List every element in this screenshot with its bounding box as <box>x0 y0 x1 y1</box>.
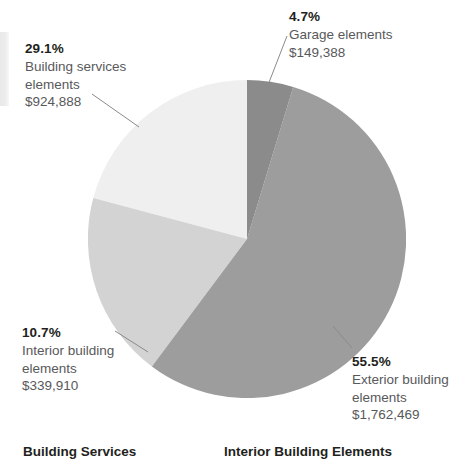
leader-line-garage <box>268 36 287 85</box>
callout-percent: 10.7% <box>22 324 114 342</box>
callout-percent: 29.1% <box>25 40 126 58</box>
callout-value: $1,762,469 <box>352 406 449 424</box>
callout-name-line2: elements <box>22 360 114 378</box>
callout-building-services: 29.1% Building services elements $924,88… <box>25 40 126 111</box>
caption-interior-building-elements: Interior Building Elements <box>224 444 392 459</box>
pie-chart-figure: 29.1% Building services elements $924,88… <box>0 0 473 460</box>
callout-name-line2: elements <box>352 389 449 407</box>
caption-building-services: Building Services <box>23 444 136 459</box>
page-edge-artifact <box>0 32 9 106</box>
callout-name-line1: Garage elements <box>289 26 393 44</box>
callout-name-line2: elements <box>25 76 126 94</box>
callout-interior-building: 10.7% Interior building elements $339,91… <box>22 324 114 395</box>
callout-name-line1: Exterior building <box>352 371 449 389</box>
callout-value: $149,388 <box>289 44 393 62</box>
pie-chart <box>88 80 406 398</box>
pie-svg <box>88 80 406 398</box>
callout-value: $339,910 <box>22 377 114 395</box>
callout-name-line1: Interior building <box>22 342 114 360</box>
callout-value: $924,888 <box>25 93 126 111</box>
callout-exterior-building: 55.5% Exterior building elements $1,762,… <box>352 353 449 424</box>
callout-percent: 55.5% <box>352 353 449 371</box>
callout-percent: 4.7% <box>289 8 393 26</box>
callout-garage: 4.7% Garage elements $149,388 <box>289 8 393 61</box>
callout-name-line1: Building services <box>25 58 126 76</box>
